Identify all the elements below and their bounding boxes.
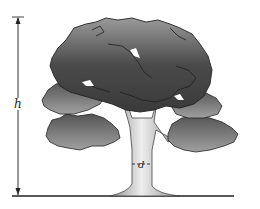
foliage-lower-right	[168, 116, 238, 152]
diameter-label: d	[138, 160, 144, 170]
foliage-lower-left	[46, 114, 120, 150]
height-label: h	[14, 98, 22, 110]
tree-diagram	[0, 0, 260, 209]
